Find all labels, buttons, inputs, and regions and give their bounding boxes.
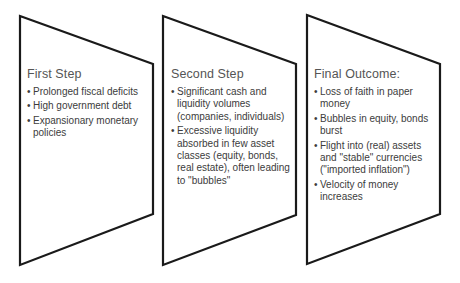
bullet-list: Prolonged fiscal deficits High governmen… — [27, 86, 152, 140]
bullet-item: Significant cash and liquidity volumes (… — [171, 86, 291, 123]
bullet-item: Expansionary monetary policies — [27, 115, 152, 140]
bullet-item: Flight into (real) assets and "stable" c… — [314, 140, 436, 177]
bullet-list: Loss of faith in paper money Bubbles in … — [314, 86, 436, 204]
panel-final-outcome: Final Outcome: Loss of faith in paper mo… — [314, 67, 436, 206]
diagram-canvas: First Step Prolonged fiscal deficits Hig… — [0, 0, 460, 283]
bullet-item: Prolonged fiscal deficits — [27, 86, 152, 98]
panel-title: First Step — [27, 67, 152, 81]
bullet-item: Loss of faith in paper money — [314, 86, 436, 111]
panel-second-step: Second Step Significant cash and liquidi… — [171, 67, 291, 189]
panel-title: Second Step — [171, 67, 291, 81]
bullet-item: Bubbles in equity, bonds burst — [314, 113, 436, 138]
bullet-list: Significant cash and liquidity volumes (… — [171, 86, 291, 187]
panel-first-step: First Step Prolonged fiscal deficits Hig… — [27, 67, 152, 142]
bullet-item: High government debt — [27, 100, 152, 112]
bullet-item: Velocity of money increases — [314, 179, 436, 204]
panel-title: Final Outcome: — [314, 67, 436, 81]
bullet-item: Excessive liquidity absorbed in few asse… — [171, 125, 291, 187]
